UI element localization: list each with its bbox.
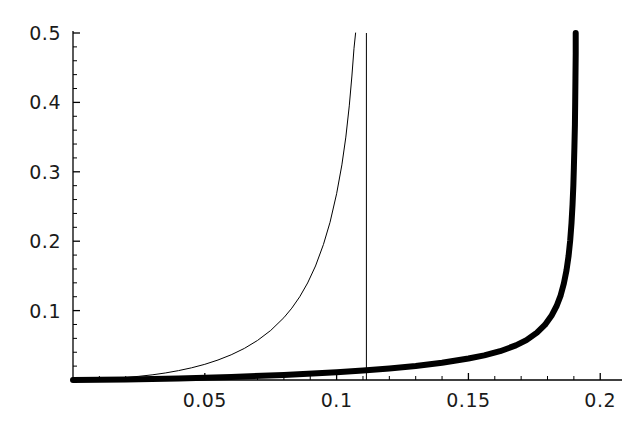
y-tick-label: 0.2	[29, 230, 61, 252]
x-tick-label: 0.1	[321, 389, 353, 411]
x-tick-label: 0.2	[584, 389, 616, 411]
chart-figure: 0.050.10.150.20.10.20.30.40.5	[0, 0, 634, 431]
y-tick-label: 0.1	[29, 300, 61, 322]
x-tick-label: 0.05	[183, 389, 227, 411]
y-tick-label: 0.4	[29, 91, 61, 113]
x-tick-label: 0.15	[446, 389, 490, 411]
y-tick-label: 0.5	[29, 22, 61, 44]
plot-canvas: 0.050.10.150.20.10.20.30.40.5	[0, 0, 634, 431]
y-tick-label: 0.3	[29, 161, 61, 183]
chart-background	[0, 0, 634, 431]
